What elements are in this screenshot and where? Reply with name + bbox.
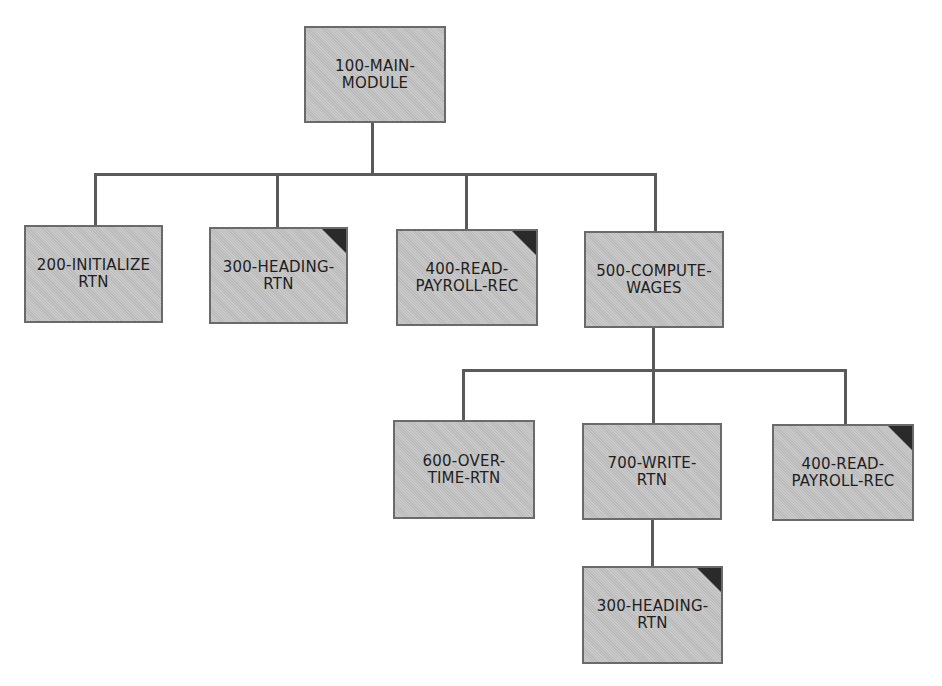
hierarchy-chart: 100-MAIN- MODULE 200-INITIALIZE RTN 300-… [0,0,942,686]
connector-to-init [94,173,97,227]
module-label: 300-HEADING- RTN [597,598,709,632]
connector-to-read1 [465,173,468,230]
module-label: 300-HEADING- RTN [223,259,335,293]
module-700-write-rtn[interactable]: 700-WRITE- RTN [582,423,722,520]
module-400-read-payroll-rec-repeat[interactable]: 400-READ- PAYROLL-REC [772,424,914,521]
connector-main-down [371,122,374,174]
connector-to-read2 [844,369,847,425]
module-600-over-time-rtn[interactable]: 600-OVER- TIME-RTN [393,420,535,519]
repeated-module-corner-icon [697,568,721,592]
connector-to-heading1 [276,173,279,229]
module-300-heading-rtn-repeat[interactable]: 300-HEADING- RTN [582,566,723,664]
module-label: 200-INITIALIZE RTN [37,257,150,291]
module-200-initialize-rtn[interactable]: 200-INITIALIZE RTN [24,225,163,323]
module-300-heading-rtn[interactable]: 300-HEADING- RTN [209,227,348,324]
module-500-compute-wages[interactable]: 500-COMPUTE- WAGES [584,231,724,328]
module-100-main-module[interactable]: 100-MAIN- MODULE [304,26,446,123]
module-label: 400-READ- PAYROLL-REC [791,456,894,490]
module-label: 100-MAIN- MODULE [335,58,415,92]
module-400-read-payroll-rec[interactable]: 400-READ- PAYROLL-REC [396,229,538,326]
repeated-module-corner-icon [888,426,912,450]
module-label: 700-WRITE- RTN [607,455,696,489]
module-label: 500-COMPUTE- WAGES [596,263,712,297]
repeated-module-corner-icon [512,231,536,255]
connector-level1-bus [94,173,657,176]
connector-to-compute [654,173,657,232]
connector-level2-bus [462,369,847,372]
module-label: 400-READ- PAYROLL-REC [415,261,518,295]
connector-to-overtime [462,369,465,422]
connector-write-to-heading2 [651,519,654,568]
module-label: 600-OVER- TIME-RTN [423,453,506,487]
repeated-module-corner-icon [322,229,346,253]
connector-compute-down [652,327,655,424]
